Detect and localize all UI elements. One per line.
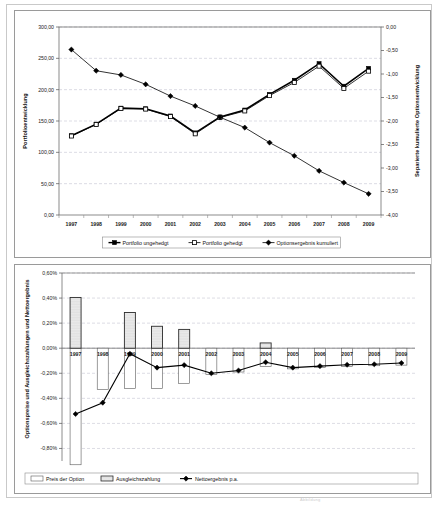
legend-label: Portfolio ungehedgt — [123, 240, 169, 246]
portfolio-chart: 0,0050,00100,00150,00200,00250,00300,00-… — [15, 11, 428, 255]
gridlines — [59, 27, 381, 184]
right-tick-label: -0,50 — [386, 47, 398, 53]
bar-ausgleichszahlung — [70, 297, 81, 348]
x-tick-label: 1998 — [90, 221, 102, 227]
y-axis-title: Portfolioentwicklung — [22, 93, 28, 149]
x-tick-label: 2000 — [140, 221, 152, 227]
right-axis: -4,00-3,50-3,00-2,50-2,00-1,50-1,00-0,50… — [381, 24, 398, 218]
legend-label: Portfolio gehedgt — [203, 240, 244, 246]
left-tick-label: 0,00% — [42, 345, 57, 351]
bar-ausgleichszahlung — [124, 312, 135, 348]
x-tick-label: 2001 — [178, 351, 190, 357]
x-tick-label: 2005 — [264, 221, 276, 227]
bar-preis-der-option — [70, 348, 81, 465]
x-tick-label: 1997 — [66, 221, 78, 227]
figure-page: 0,0050,00100,00150,00200,00250,00300,00-… — [0, 0, 441, 508]
x-axis: 1997199819992000200120022003200420052006… — [70, 351, 408, 357]
left-tick-label: 0,40% — [42, 295, 57, 301]
legend-label: Ausgleichszahlung — [116, 476, 160, 482]
x-tick-label: 2002 — [206, 351, 218, 357]
data-point — [168, 115, 172, 119]
x-tick-label: 1999 — [115, 221, 127, 227]
legend-swatch-ausgleichszahlung — [101, 476, 113, 481]
x-tick-label: 2001 — [165, 221, 177, 227]
right-tick-label: -2,00 — [386, 118, 398, 124]
data-point — [267, 140, 272, 145]
x-tick-label: 2004 — [260, 351, 272, 357]
left-tick-label: 150,00 — [38, 118, 54, 124]
legend: Portfolio ungehedgtPortfolio gehedgtOpti… — [103, 237, 341, 248]
data-point — [316, 168, 321, 173]
left-tick-label: 200,00 — [38, 87, 54, 93]
left-tick-label: -0,60% — [41, 420, 58, 426]
right-tick-label: -3,00 — [386, 165, 398, 171]
x-tick-label: 2000 — [151, 351, 163, 357]
right-tick-label: -1,50 — [386, 94, 398, 100]
series-preis-der-option — [70, 348, 407, 465]
right-tick-label: -2,50 — [386, 141, 398, 147]
data-point — [342, 86, 346, 90]
data-point — [366, 191, 371, 196]
left-tick-label: 0,20% — [42, 320, 57, 326]
data-point — [144, 107, 148, 111]
data-point — [143, 82, 148, 87]
x-tick-label: 1997 — [70, 351, 82, 357]
data-point — [367, 69, 371, 73]
data-point — [243, 109, 247, 113]
y2-axis-title: Separierte kumulierte Optionsentwicklung — [414, 64, 420, 177]
figure-footnote: Abbildung — [300, 497, 321, 502]
data-point — [193, 103, 198, 108]
x-tick-label: 2007 — [341, 351, 353, 357]
series-line — [71, 50, 368, 194]
left-tick-label: 100,00 — [38, 149, 54, 155]
portfolio-chart-card: 0,0050,00100,00150,00200,00250,00300,00-… — [14, 10, 431, 258]
x-tick-label: 2006 — [314, 351, 326, 357]
data-point — [94, 122, 98, 126]
legend: Preis der OptionAusgleichszahlungNettoer… — [25, 473, 418, 484]
data-point — [193, 132, 197, 136]
x-tick-label: 2005 — [287, 351, 299, 357]
data-point — [242, 125, 247, 130]
bar-ausgleichszahlung — [179, 329, 190, 348]
data-point — [268, 94, 272, 98]
right-tick-label: 0,00 — [386, 24, 396, 30]
x-tick-label: 2006 — [289, 221, 301, 227]
option-cost-chart-card: 0,60%0,40%0,20%0,00%-0,20%-0,40%-0,60%-0… — [14, 264, 431, 494]
x-tick-label: 2003 — [214, 221, 226, 227]
left-tick-label: 0,00 — [44, 212, 54, 218]
left-axis: 0,60%0,40%0,20%0,00%-0,20%-0,40%-0,60%-0… — [41, 270, 62, 451]
series-ausgleichszahlung — [70, 297, 271, 348]
bar-ausgleichszahlung — [260, 343, 271, 348]
left-axis: 0,0050,00100,00150,00200,00250,00300,00 — [38, 24, 59, 218]
left-tick-label: -0,20% — [41, 370, 58, 376]
left-tick-label: 300,00 — [38, 24, 54, 30]
x-tick-label: 2003 — [233, 351, 245, 357]
data-point — [341, 180, 346, 185]
left-tick-label: -0,40% — [41, 395, 58, 401]
data-point — [168, 93, 173, 98]
x-tick-label: 2009 — [396, 351, 408, 357]
x-axis: 1997199819992000200120022003200420052006… — [59, 215, 381, 227]
left-tick-label: 0,60% — [42, 270, 57, 276]
left-tick-label: 250,00 — [38, 55, 54, 61]
x-tick-label: 2009 — [363, 221, 375, 227]
bar-ausgleichszahlung — [152, 326, 163, 348]
legend-label: Preis der Option — [46, 476, 84, 482]
legend-swatch-preis-der-option — [31, 476, 43, 481]
data-point — [317, 64, 321, 68]
y-axis-title: Optionspreise und Ausgleichszahlungen un… — [24, 279, 30, 438]
legend-label: Nettoergebnis p.a. — [195, 476, 238, 482]
series-line — [71, 66, 368, 136]
data-point — [118, 72, 123, 77]
x-tick-label: 2008 — [338, 221, 350, 227]
data-point — [69, 134, 73, 138]
x-tick-label: 2008 — [368, 351, 380, 357]
x-tick-label: 2007 — [313, 221, 325, 227]
data-point — [292, 80, 296, 84]
series-1 — [69, 64, 370, 138]
right-tick-label: -1,00 — [386, 71, 398, 77]
left-tick-label: 50,00 — [41, 181, 54, 187]
x-tick-label: 2004 — [239, 221, 251, 227]
x-tick-label: 2002 — [189, 221, 201, 227]
legend-marker — [113, 241, 117, 245]
